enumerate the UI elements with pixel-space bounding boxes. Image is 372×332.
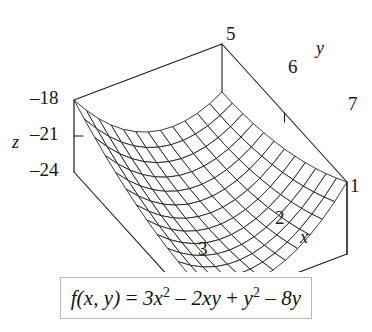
y-tick-label-7: 7 — [348, 94, 358, 113]
y-axis-label: y — [316, 39, 324, 57]
y-tick-label-5: 5 — [226, 24, 236, 43]
surface-plot: 5 6 7 y 1 2 3 x –18 –21 –24 z — [0, 0, 372, 272]
formula-box: f(x, y) = 3x2 – 2xy + y2 – 8y — [60, 277, 312, 319]
z-tick-label-top: –18 — [30, 88, 59, 107]
x-axis-label: x — [300, 228, 308, 246]
z-tick-label-mid: –21 — [30, 124, 59, 143]
z-tick-label-bottom: –24 — [30, 160, 59, 179]
figure-page: 5 6 7 y 1 2 3 x –18 –21 –24 z f(x, y) = … — [0, 0, 372, 332]
formula-text: f(x, y) = 3x2 – 2xy + y2 – 8y — [71, 286, 302, 311]
x-tick-label-2: 2 — [275, 208, 285, 227]
y-tick-label-6: 6 — [288, 57, 298, 76]
x-tick-label-3: 3 — [198, 239, 208, 258]
z-axis-label: z — [12, 133, 19, 151]
x-tick-label-1: 1 — [350, 176, 360, 195]
